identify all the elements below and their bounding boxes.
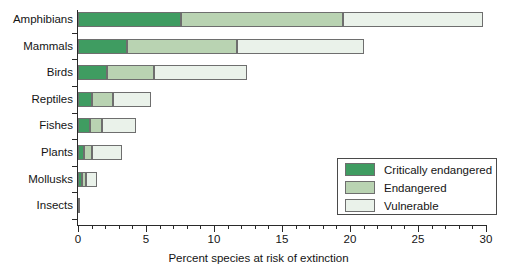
x-tick-minor: [323, 226, 324, 229]
bar-segment-endangered: [84, 145, 91, 160]
bar-segment-vulnerable: [113, 92, 151, 107]
x-tick-label: 15: [276, 233, 289, 245]
bar-segment-endangered: [90, 118, 102, 133]
x-tick-minor: [200, 226, 201, 229]
x-tick-minor: [92, 226, 93, 229]
x-tick-minor: [364, 226, 365, 229]
x-tick-minor: [459, 226, 460, 229]
x-tick-minor: [187, 226, 188, 229]
x-tick-minor: [336, 226, 337, 229]
legend-label-critically-endangered: Critically endangered: [384, 164, 492, 176]
x-tick-minor: [255, 226, 256, 229]
x-tick-label: 10: [208, 233, 221, 245]
legend-item-endangered: Endangered: [345, 181, 447, 194]
bar-reptiles: [0, 92, 507, 107]
x-tick-minor: [132, 226, 133, 229]
bar-segment-vulnerable: [237, 39, 363, 54]
x-tick-label: 30: [480, 233, 493, 245]
x-tick-label: 0: [75, 233, 81, 245]
bar-segment-endangered: [127, 39, 237, 54]
bar-segment-vulnerable: [92, 145, 122, 160]
x-tick-minor: [377, 226, 378, 229]
x-tick-minor: [296, 226, 297, 229]
bar-segment-vulnerable: [343, 12, 483, 27]
x-axis-title-text: Percent species at risk of extinction: [168, 252, 348, 264]
y-tick: [72, 219, 77, 220]
bar-segment-vulnerable: [86, 172, 97, 187]
x-tick-minor: [241, 226, 242, 229]
y-tick: [72, 33, 77, 34]
bar-segment-critically-endangered: [78, 65, 107, 80]
x-tick-minor: [391, 226, 392, 229]
x-tick-major: [418, 226, 419, 232]
x-tick-major: [214, 226, 215, 232]
x-tick-label: 5: [143, 233, 149, 245]
legend-label-vulnerable: Vulnerable: [384, 200, 439, 212]
bar-birds: [0, 65, 507, 80]
x-tick-minor: [404, 226, 405, 229]
bar-segment-vulnerable: [102, 118, 136, 133]
legend-swatch-critically-endangered: [345, 163, 375, 176]
bar-segment-critically-endangered: [78, 118, 90, 133]
x-tick-major: [350, 226, 351, 232]
x-tick-major: [282, 226, 283, 232]
x-tick-minor: [445, 226, 446, 229]
y-tick: [72, 192, 77, 193]
legend-swatch-vulnerable: [345, 199, 375, 212]
x-tick-minor: [173, 226, 174, 229]
legend-item-vulnerable: Vulnerable: [345, 199, 439, 212]
stacked-bar-chart: 051015202530AmphibiansMammalsBirdsReptil…: [0, 0, 507, 275]
x-axis-title: Percent species at risk of extinction: [0, 252, 507, 265]
y-tick: [72, 113, 77, 114]
legend-swatch-endangered: [345, 181, 375, 194]
x-tick-major: [146, 226, 147, 232]
y-tick: [72, 59, 77, 60]
bar-fishes: [0, 118, 507, 133]
legend: Critically endangered Endangered Vulnera…: [337, 158, 497, 215]
y-tick: [72, 166, 77, 167]
bar-segment-critically-endangered: [78, 92, 92, 107]
x-tick-minor: [472, 226, 473, 229]
x-tick-minor: [119, 226, 120, 229]
bar-amphibians: [0, 12, 507, 27]
bar-segment-critically-endangered: [78, 198, 80, 213]
y-tick: [72, 139, 77, 140]
bar-segment-endangered: [92, 92, 114, 107]
x-tick-minor: [105, 226, 106, 229]
x-tick-minor: [309, 226, 310, 229]
x-tick-major: [486, 226, 487, 232]
legend-label-endangered: Endangered: [384, 182, 447, 194]
bar-segment-vulnerable: [154, 65, 246, 80]
x-tick-label: 25: [412, 233, 425, 245]
bar-segment-endangered: [107, 65, 155, 80]
x-tick-minor: [160, 226, 161, 229]
bar-segment-critically-endangered: [78, 39, 127, 54]
y-tick: [72, 86, 77, 87]
x-tick-minor: [268, 226, 269, 229]
x-tick-minor: [228, 226, 229, 229]
bar-segment-endangered: [181, 12, 343, 27]
legend-item-critically-endangered: Critically endangered: [345, 163, 492, 176]
bar-segment-critically-endangered: [78, 12, 181, 27]
bar-mammals: [0, 39, 507, 54]
x-tick-label: 20: [344, 233, 357, 245]
x-tick-minor: [432, 226, 433, 229]
x-tick-major: [78, 226, 79, 232]
